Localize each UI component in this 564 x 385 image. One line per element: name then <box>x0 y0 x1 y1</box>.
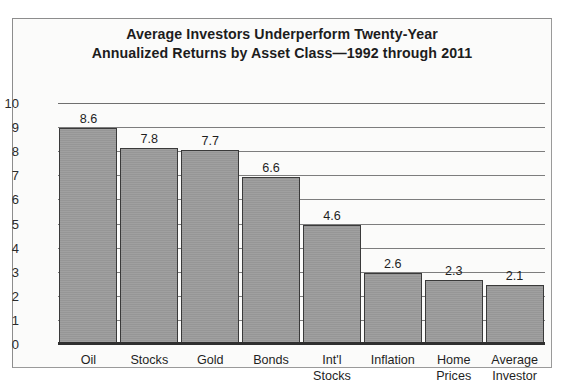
y-axis-tick-label: 10 <box>0 97 19 110</box>
x-axis-category-label: Int'l Stocks <box>302 353 363 384</box>
chart-title-line-2: Annualized Returns by Asset Class—1992 t… <box>13 44 551 63</box>
x-axis-category-label: Average Investor <box>484 353 545 384</box>
y-axis-tick-label: 4 <box>0 241 19 254</box>
bar-value-label: 7.7 <box>181 135 239 148</box>
bar[interactable] <box>364 273 422 344</box>
y-axis-tick-label: 9 <box>0 121 19 134</box>
bar[interactable] <box>303 225 361 344</box>
bar[interactable] <box>59 128 117 344</box>
bar-value-label: 8.6 <box>59 113 117 126</box>
y-axis-tick-label: 0 <box>0 338 19 351</box>
bar-value-label: 2.6 <box>364 258 422 271</box>
y-axis-tick-label: 8 <box>0 145 19 158</box>
chart-title: Average Investors Underperform Twenty-Ye… <box>13 25 551 63</box>
gridline <box>58 103 545 104</box>
y-axis-tick-label: 7 <box>0 169 19 182</box>
bar[interactable] <box>120 148 178 344</box>
bar[interactable] <box>242 177 300 344</box>
plot-area: 012345678910 8.67.87.76.64.62.62.32.1 <box>58 103 545 344</box>
chart-page: Average Investors Underperform Twenty-Ye… <box>0 0 564 385</box>
x-axis-category-label: Stocks <box>119 353 180 369</box>
y-axis-tick-label: 6 <box>0 193 19 206</box>
bar-value-label: 6.6 <box>242 162 300 175</box>
y-axis-tick-label: 5 <box>0 217 19 230</box>
x-axis-category-label: Home Prices <box>423 353 484 384</box>
y-axis-tick-label: 1 <box>0 313 19 326</box>
bar[interactable] <box>486 285 544 344</box>
bar[interactable] <box>425 280 483 344</box>
bar-value-label: 2.1 <box>486 270 544 283</box>
chart-title-line-1: Average Investors Underperform Twenty-Ye… <box>13 25 551 44</box>
bar-value-label: 4.6 <box>303 210 361 223</box>
x-axis-baseline <box>58 342 545 345</box>
x-axis-category-label: Bonds <box>241 353 302 369</box>
x-axis-labels: OilStocksGoldBondsInt'l StocksInflationH… <box>58 353 545 385</box>
y-axis-tick-label: 3 <box>0 265 19 278</box>
gridline <box>58 127 545 128</box>
y-axis-tick-label: 2 <box>0 289 19 302</box>
x-axis-category-label: Gold <box>180 353 241 369</box>
x-axis-category-label: Inflation <box>362 353 423 369</box>
bar-value-label: 2.3 <box>425 265 483 278</box>
bar[interactable] <box>181 150 239 344</box>
bar-value-label: 7.8 <box>120 133 178 146</box>
x-axis-category-label: Oil <box>58 353 119 369</box>
chart-frame: Average Investors Underperform Twenty-Ye… <box>12 18 552 368</box>
